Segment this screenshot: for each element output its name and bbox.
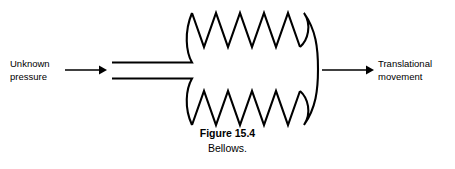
output-movement-label: Translational movement (378, 57, 432, 83)
bellows-body (187, 13, 318, 125)
inlet-tube (112, 63, 187, 79)
bellows-bottom-corrugation (192, 91, 300, 125)
figure-caption-subtitle: Bellows. (0, 141, 455, 156)
output-arrow-icon (322, 66, 374, 75)
figure-container: Unknown pressure Translational movement … (0, 0, 455, 169)
bellows-left-cap-upper (187, 13, 192, 63)
input-pressure-label-line1: Unknown (10, 57, 50, 70)
bellows-right-cap (300, 13, 318, 125)
bellows-top-corrugation (192, 13, 300, 47)
figure-caption: Figure 15.4 Bellows. (0, 126, 455, 156)
output-movement-label-line1: Translational (378, 57, 432, 70)
figure-caption-title: Figure 15.4 (0, 126, 455, 141)
output-movement-label-line2: movement (378, 70, 432, 83)
input-arrow-icon (65, 66, 107, 75)
input-pressure-label-line2: pressure (10, 70, 50, 83)
bellows-left-cap-lower (187, 79, 192, 126)
input-pressure-label: Unknown pressure (10, 57, 50, 83)
